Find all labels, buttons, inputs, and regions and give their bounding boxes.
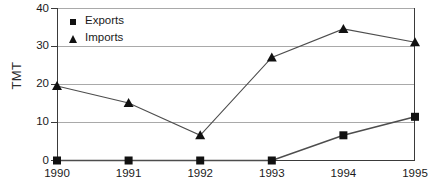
x-tick-label: 1995	[388, 168, 432, 180]
x-tick-label: 1990	[30, 168, 84, 180]
x-tick-label: 1992	[173, 168, 227, 180]
x-tick-label: 1994	[316, 168, 370, 180]
x-tick-label: 1993	[245, 168, 299, 180]
x-tick-label: 1991	[102, 168, 156, 180]
